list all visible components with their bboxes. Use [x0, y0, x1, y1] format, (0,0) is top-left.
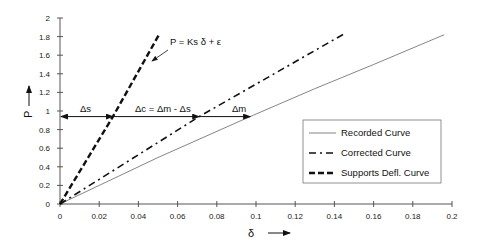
x-tick-label: 0.06 — [170, 212, 186, 221]
y-tick-label: 1.2 — [39, 88, 51, 97]
y-tick-label: 1 — [46, 107, 51, 116]
x-tick-label: 0 — [58, 212, 63, 221]
y-tick-label: 0 — [46, 200, 51, 209]
y-tick-label: 0.8 — [39, 126, 51, 135]
x-tick-label: 0.12 — [287, 212, 303, 221]
y-tick-label: 0.2 — [39, 181, 51, 190]
series-supports-defl-curve — [60, 35, 159, 204]
legend-label: Corrected Curve — [341, 147, 411, 158]
y-tick-label: 1.4 — [39, 70, 51, 79]
equation-arrow — [152, 50, 168, 61]
x-tick-label: 0.18 — [405, 212, 421, 221]
y-axis-label: P — [22, 111, 34, 118]
series-corrected-curve — [60, 34, 344, 204]
y-tick-label: 2 — [46, 14, 51, 23]
y-tick-label: 1.8 — [39, 33, 51, 42]
x-tick-label: 0.02 — [91, 212, 107, 221]
legend-label: Recorded Curve — [341, 127, 410, 138]
x-tick-label: 0.14 — [327, 212, 343, 221]
equation-label: P = Ks δ + ε — [170, 36, 222, 47]
load-deflection-chart: 00.020.040.060.080.10.120.140.160.180.20… — [0, 0, 479, 248]
x-tick-label: 0.04 — [131, 212, 147, 221]
x-tick-label: 0.2 — [446, 212, 458, 221]
delta-m-label: Δm — [232, 103, 246, 114]
y-tick-label: 1.6 — [39, 51, 51, 60]
delta-s-label: Δs — [80, 103, 91, 114]
x-tick-label: 0.08 — [209, 212, 225, 221]
x-tick-label: 0.1 — [250, 212, 262, 221]
x-axis-label: δ — [248, 227, 254, 239]
x-tick-label: 0.16 — [366, 212, 382, 221]
legend-label: Supports Defl. Curve — [341, 167, 429, 178]
y-tick-label: 0.6 — [39, 144, 51, 153]
legend: Recorded CurveCorrected CurveSupports De… — [303, 120, 441, 183]
delta-c-label: Δc = Δm - Δs — [135, 103, 191, 114]
y-tick-label: 0.4 — [39, 163, 51, 172]
